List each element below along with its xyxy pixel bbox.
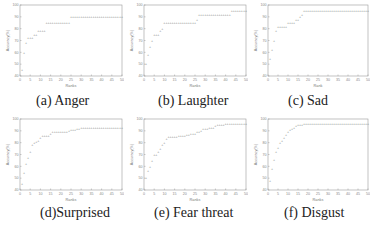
x-tick-label: 20 <box>183 78 187 82</box>
data-point: + <box>151 159 153 163</box>
data-point: + <box>157 150 159 154</box>
x-tick-label: 20 <box>183 192 187 196</box>
y-tick-label: 90 <box>263 129 267 133</box>
data-point: + <box>367 122 369 126</box>
data-point: + <box>29 150 31 154</box>
data-point: + <box>145 176 147 180</box>
y-tick-label: 70 <box>15 39 19 43</box>
data-point: + <box>31 36 33 40</box>
x-tick-label: 45 <box>356 192 360 196</box>
x-tick-label: 25 <box>69 192 73 196</box>
data-point: + <box>273 158 275 162</box>
x-tick-label: 40 <box>100 78 104 82</box>
chart-laughter: 05101520253035404550405060708090100Ranks… <box>128 2 248 88</box>
y-tick-label: 60 <box>15 165 19 169</box>
x-tick-label: 15 <box>173 192 177 196</box>
data-point: + <box>21 182 23 186</box>
x-tick-label: 15 <box>296 192 300 196</box>
y-tick-label: 100 <box>261 3 267 7</box>
chart-surprised-plot: 05101520253035404550405060708090100Ranks… <box>4 116 124 202</box>
data-point: + <box>229 13 231 17</box>
x-tick-label: 15 <box>49 78 53 82</box>
x-tick-label: 50 <box>366 78 370 82</box>
x-tick-label: 50 <box>120 78 124 82</box>
y-tick-label: 40 <box>263 188 267 192</box>
y-tick-label: 60 <box>139 165 143 169</box>
data-point: + <box>35 33 37 37</box>
y-tick-label: 60 <box>263 51 267 55</box>
x-tick-label: 25 <box>316 192 320 196</box>
x-tick-label: 10 <box>286 78 290 82</box>
x-tick-label: 30 <box>79 78 83 82</box>
x-tick-label: 35 <box>213 192 217 196</box>
x-tick-label: 5 <box>29 192 31 196</box>
x-tick-label: 10 <box>38 192 42 196</box>
y-tick-label: 50 <box>15 176 19 180</box>
data-point: + <box>269 57 271 61</box>
x-tick-label: 15 <box>49 192 53 196</box>
data-point: + <box>275 29 277 33</box>
chart-sad-plot: 05101520253035404550405060708090100RankA… <box>252 2 370 88</box>
y-tick-label: 100 <box>13 117 19 121</box>
y-tick-label: 90 <box>15 129 19 133</box>
x-axis-label: Ranks <box>190 84 201 88</box>
data-point: + <box>275 150 277 154</box>
data-point: + <box>21 68 23 72</box>
x-tick-label: 0 <box>143 78 145 82</box>
data-point: + <box>245 9 247 13</box>
chart-anger: 05101520253035404550405060708090100Ranks… <box>4 2 124 88</box>
y-tick-label: 90 <box>139 15 143 19</box>
x-tick-label: 25 <box>316 78 320 82</box>
x-tick-label: 15 <box>173 78 177 82</box>
chart-laughter-plot: 05101520253035404550405060708090100Ranks… <box>128 2 248 88</box>
x-tick-label: 5 <box>29 78 31 82</box>
data-point: + <box>149 45 151 49</box>
chart-fear-threat-plot: 05101520253035404550405060708090100Ranks… <box>128 116 248 202</box>
x-axis-label: Rank <box>314 84 323 88</box>
y-tick-label: 90 <box>15 15 19 19</box>
data-point: + <box>145 62 147 66</box>
y-tick-label: 80 <box>15 141 19 145</box>
x-tick-label: 20 <box>59 192 63 196</box>
data-point: + <box>23 51 25 55</box>
data-point: + <box>163 141 165 145</box>
x-tick-label: 35 <box>89 192 93 196</box>
x-tick-label: 45 <box>234 78 238 82</box>
plot-area <box>268 5 368 76</box>
x-tick-label: 10 <box>286 192 290 196</box>
y-tick-label: 80 <box>139 141 143 145</box>
x-tick-label: 0 <box>267 192 269 196</box>
y-tick-label: 80 <box>139 27 143 31</box>
data-point: + <box>269 179 271 183</box>
data-point: + <box>285 25 287 29</box>
y-tick-label: 70 <box>263 39 267 43</box>
data-point: + <box>149 165 151 169</box>
x-tick-label: 50 <box>244 192 248 196</box>
y-tick-label: 50 <box>263 62 267 66</box>
x-tick-label: 10 <box>38 78 42 82</box>
data-point: + <box>301 13 303 17</box>
y-tick-label: 100 <box>261 117 267 121</box>
data-point: + <box>271 167 273 171</box>
data-point: + <box>25 162 27 166</box>
y-axis-label: Accuracy(%) <box>6 143 10 165</box>
x-tick-label: 0 <box>19 78 21 82</box>
y-tick-label: 80 <box>263 141 267 145</box>
x-axis-label: Ranks <box>66 198 77 202</box>
y-tick-label: 70 <box>139 153 143 157</box>
data-point: + <box>27 156 29 160</box>
x-tick-label: 5 <box>277 192 279 196</box>
y-tick-label: 50 <box>15 62 19 66</box>
x-tick-label: 20 <box>306 78 310 82</box>
y-tick-label: 70 <box>263 153 267 157</box>
x-tick-label: 35 <box>336 192 340 196</box>
x-tick-label: 25 <box>193 192 197 196</box>
y-tick-label: 100 <box>13 3 19 7</box>
data-point: + <box>293 21 295 25</box>
caption-sad: (c) Sad <box>288 93 328 109</box>
x-tick-label: 50 <box>120 192 124 196</box>
x-tick-label: 30 <box>79 192 83 196</box>
x-tick-label: 0 <box>19 192 21 196</box>
caption-laughter: (b) Laughter <box>158 93 228 109</box>
x-tick-label: 10 <box>162 78 166 82</box>
